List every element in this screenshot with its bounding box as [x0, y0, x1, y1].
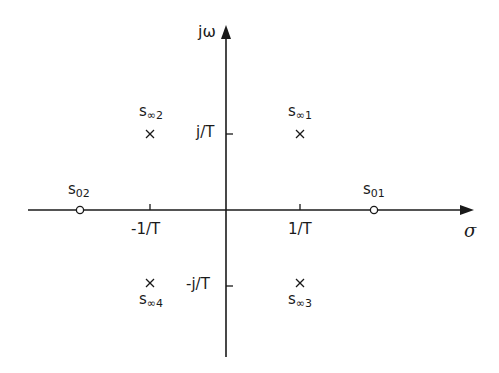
tick-label-real-pos: 1/T [288, 222, 312, 237]
real-axis-arrow-icon [460, 205, 474, 215]
zero-label-s02: s02 [68, 182, 90, 199]
pole-marker-s-inf-4 [146, 279, 154, 287]
zero-marker-s02 [76, 206, 83, 213]
pole-marker-s-inf-1 [296, 130, 304, 138]
zero-marker-s01 [370, 206, 377, 213]
pole-label-s-inf-2: s∞2 [139, 104, 163, 121]
pole-marker-s-inf-3 [296, 279, 304, 287]
imag-axis-arrow-icon [221, 25, 231, 39]
zero-label-s01: s01 [363, 182, 385, 199]
tick-label-real-neg: -1/T [131, 222, 160, 237]
tick-label-imag-pos: j/T [196, 125, 214, 140]
pole-label-s-inf-3: s∞3 [288, 292, 312, 309]
pole-label-s-inf-4: s∞4 [139, 292, 163, 309]
pole-marker-s-inf-2 [146, 130, 154, 138]
pole-label-s-inf-1: s∞1 [288, 104, 312, 121]
imag-axis-label: jω [198, 24, 216, 40]
tick-label-imag-neg: -j/T [186, 277, 210, 292]
real-axis-label: σ [464, 222, 476, 240]
